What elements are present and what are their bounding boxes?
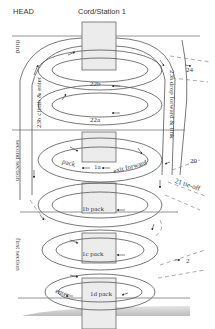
step-20-label: 20 [190,158,197,165]
step-22a-label: 22a [90,117,100,124]
step-1b-label: 1b pack [82,206,104,213]
step-24-label: 24 [186,67,193,74]
cord-station-label: Cord/Station 1 [78,8,126,16]
step-1a-label: 1a [94,164,101,171]
step-1d-label: 1d pack [90,291,112,298]
step-23b-label: 23b climb & enter [36,77,43,128]
coil-loops [38,50,162,310]
section-label-third: third [14,40,21,53]
cord [82,22,116,329]
section-label-first: first section [14,238,21,271]
step-1c-label: 1c pack [82,251,104,258]
step-2-label: 2 [186,258,190,265]
knot-diagram [0,0,215,329]
head-label: HEAD [13,8,34,16]
step-23a-label: 23a drop forward & link [168,70,175,138]
step-22b-label: 22b [90,81,101,88]
section-label-second: second section [14,140,21,181]
